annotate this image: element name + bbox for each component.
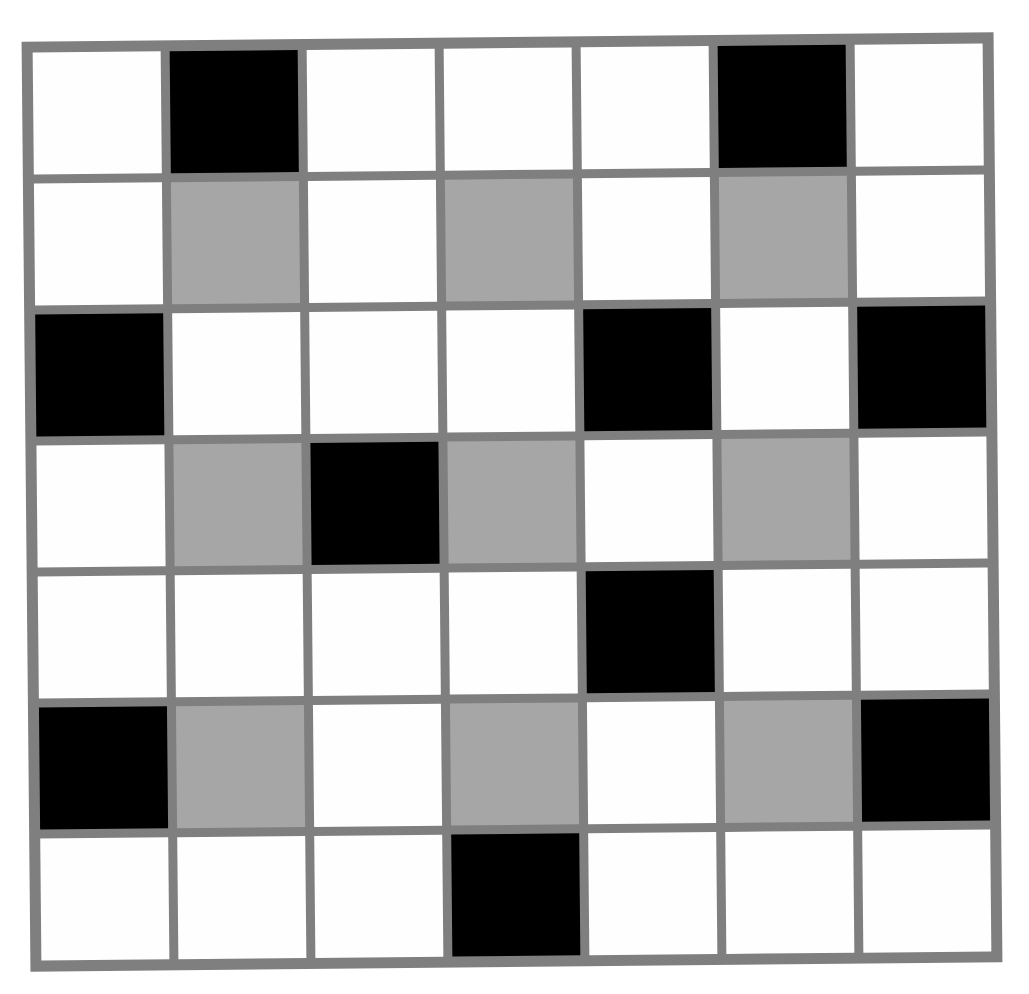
grid-cell-white bbox=[856, 174, 985, 297]
grid-cell-white bbox=[38, 575, 167, 698]
grid-cell-white bbox=[855, 43, 984, 166]
grid-cell-white bbox=[40, 837, 169, 960]
grid-cell-black bbox=[170, 50, 299, 173]
grid-cell-white bbox=[723, 569, 852, 692]
grid-cell-white bbox=[858, 436, 987, 559]
grid-cell-white bbox=[309, 311, 438, 434]
grid-cell-gray bbox=[445, 178, 574, 301]
grid-cell-white bbox=[36, 444, 165, 567]
grid-cell-black bbox=[310, 442, 439, 565]
grid-cell-black bbox=[35, 313, 164, 436]
grid-cell-black bbox=[861, 698, 990, 821]
grid-cell-white bbox=[449, 571, 578, 694]
grid-cell-white bbox=[582, 177, 711, 300]
grid-cell-black bbox=[718, 45, 847, 168]
grid-cell-white bbox=[177, 836, 306, 959]
grid-cell-gray bbox=[721, 438, 850, 561]
grid-cell-gray bbox=[450, 702, 579, 825]
grid-cell-white bbox=[720, 307, 849, 430]
tile-grid bbox=[22, 32, 1003, 971]
grid-cell-white bbox=[587, 701, 716, 824]
grid-cell-white bbox=[33, 51, 162, 174]
grid-cell-gray bbox=[176, 705, 305, 828]
grid-cell-white bbox=[314, 835, 443, 958]
grid-cell-white bbox=[313, 704, 442, 827]
grid-cell-white bbox=[312, 573, 441, 696]
grid-cell-white bbox=[584, 439, 713, 562]
grid-cell-white bbox=[588, 832, 717, 955]
grid-cell-white bbox=[581, 46, 710, 169]
grid-cell-white bbox=[308, 180, 437, 303]
grid-cell-black bbox=[586, 570, 715, 693]
grid-cell-gray bbox=[173, 443, 302, 566]
grid-cell-white bbox=[860, 567, 989, 690]
grid-cell-gray bbox=[719, 176, 848, 299]
grid-cell-white bbox=[175, 574, 304, 697]
grid-cell-white bbox=[307, 49, 436, 172]
grid-cell-white bbox=[444, 47, 573, 170]
canvas bbox=[0, 0, 1029, 994]
grid-cell-black bbox=[857, 305, 986, 428]
grid-cell-white bbox=[446, 309, 575, 432]
grid-cell-white bbox=[172, 312, 301, 435]
grid-cell-white bbox=[725, 831, 854, 954]
grid-cell-black bbox=[39, 706, 168, 829]
grid-cell-gray bbox=[171, 181, 300, 304]
grid-cell-white bbox=[34, 182, 163, 305]
grid-cell-gray bbox=[724, 700, 853, 823]
grid-cell-gray bbox=[447, 440, 576, 563]
grid-cell-black bbox=[451, 833, 580, 956]
grid-cell-white bbox=[862, 829, 991, 952]
grid-cell-black bbox=[583, 308, 712, 431]
